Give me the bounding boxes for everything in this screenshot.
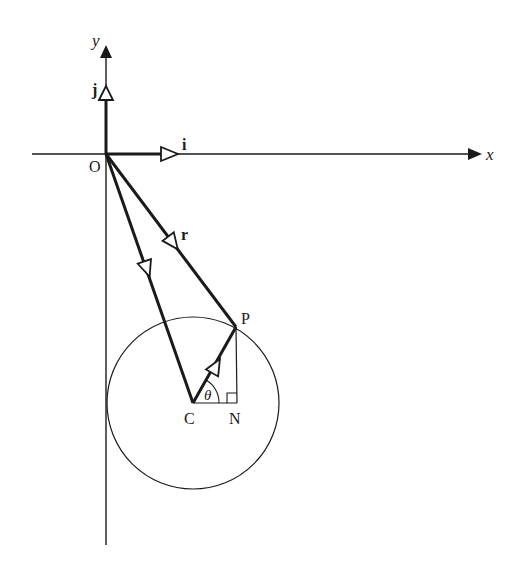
y-axis-arrow-icon bbox=[100, 45, 112, 58]
point-n-label: N bbox=[229, 410, 241, 427]
vector-r bbox=[106, 154, 236, 327]
open-arrow-icon bbox=[99, 86, 113, 100]
unit-vector-j-label: j bbox=[91, 81, 97, 99]
vector-r-label: r bbox=[181, 226, 188, 243]
vector-oc bbox=[106, 154, 193, 403]
right-angle-marker-icon bbox=[227, 393, 237, 403]
origin-label: O bbox=[89, 158, 101, 175]
x-axis-arrow-icon bbox=[468, 148, 482, 160]
point-p-label: P bbox=[241, 310, 250, 327]
unit-vector-i bbox=[106, 147, 178, 161]
y-axis-label: y bbox=[90, 31, 100, 50]
x-axis-label: x bbox=[485, 145, 494, 164]
vector-cp bbox=[193, 327, 236, 403]
vector-diagram: y x O j i r P C N θ bbox=[0, 0, 514, 572]
unit-vector-j bbox=[99, 86, 113, 154]
unit-vector-i-label: i bbox=[182, 136, 187, 153]
open-arrow-icon bbox=[161, 147, 178, 161]
point-c-label: C bbox=[184, 410, 195, 427]
open-arrow-icon bbox=[138, 259, 157, 279]
angle-theta-label: θ bbox=[204, 387, 212, 403]
